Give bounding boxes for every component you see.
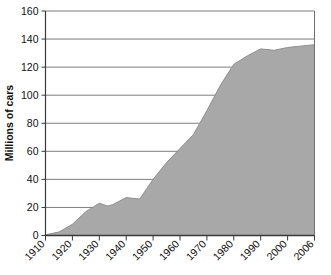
y-axis-title: Millions of cars: [3, 85, 15, 162]
x-tick-label: 1940: [103, 237, 128, 262]
y-tick-label: 60: [27, 145, 39, 157]
y-tick-label: 40: [27, 173, 39, 185]
x-tick-label: 1910: [22, 237, 47, 262]
y-tick-label: 140: [21, 33, 39, 45]
x-tick-label: 1970: [183, 237, 208, 262]
y-tick-label: 20: [27, 201, 39, 213]
x-tick-label: 1960: [156, 237, 181, 262]
y-tick-label: 100: [21, 89, 39, 101]
y-axis-ticks: 020406080100120140160: [21, 5, 46, 242]
x-tick-label: 2000: [264, 237, 289, 262]
x-tick-label: 1930: [76, 237, 101, 262]
x-tick-label: 1980: [210, 237, 235, 262]
x-tick-label: 2006: [291, 237, 316, 262]
area-chart: 020406080100120140160 191019201930194019…: [0, 0, 331, 275]
chart-container: 020406080100120140160 191019201930194019…: [0, 0, 331, 275]
y-tick-label: 160: [21, 5, 39, 17]
x-tick-label: 1950: [130, 237, 155, 262]
y-tick-label: 80: [27, 117, 39, 129]
y-tick-label: 120: [21, 61, 39, 73]
x-tick-label: 1920: [49, 237, 74, 262]
x-axis-ticks: 1910192019301940195019601970198019902000…: [22, 236, 316, 263]
x-tick-label: 1990: [237, 237, 262, 262]
